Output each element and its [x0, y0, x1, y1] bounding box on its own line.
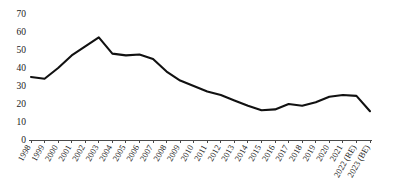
- x-axis: [29, 140, 372, 143]
- x-axis-tick-label: 1999: [29, 143, 46, 163]
- data-series-line: [31, 37, 370, 111]
- y-axis-tick-label: 70: [17, 9, 27, 19]
- y-axis-tick-label: 20: [17, 99, 27, 109]
- x-axis-tick-label: 2008: [151, 143, 168, 163]
- x-axis-tick-label: 2009: [165, 143, 182, 163]
- y-axis-tick-label: 40: [17, 63, 27, 73]
- y-axis-tick-label: 10: [17, 117, 27, 127]
- x-axis-tick-label: 2003: [83, 143, 100, 163]
- x-axis-tick-label: 2018: [287, 143, 304, 163]
- x-axis-tick-labels: 1998199920002001200220032004200520062007…: [15, 142, 371, 179]
- x-axis-tick-label: 2005: [110, 143, 127, 163]
- x-axis-tick-label: 1998: [15, 143, 32, 163]
- x-axis-tick-label: 2015: [246, 143, 263, 163]
- x-axis-tick-label: 2020: [314, 143, 331, 163]
- y-axis-tick-label: 30: [17, 81, 27, 91]
- y-axis-tick-label: 60: [17, 27, 27, 37]
- x-axis-tick-label: 2000: [43, 143, 60, 163]
- x-axis-tick-label: 2019: [300, 143, 317, 163]
- x-axis-tick-label: 2002: [70, 143, 87, 163]
- line-chart: 010203040506070 199819992000200120022003…: [0, 0, 408, 196]
- x-axis-tick-label: 2010: [178, 143, 195, 163]
- x-axis-tick-label: 2001: [56, 143, 73, 163]
- y-axis-tick-labels: 010203040506070: [17, 9, 27, 145]
- chart-container: 010203040506070 199819992000200120022003…: [0, 0, 408, 196]
- x-axis-tick-label: 2013: [219, 143, 236, 163]
- y-axis-tick-label: 50: [17, 45, 27, 55]
- x-axis-tick-label: 2012: [205, 143, 222, 163]
